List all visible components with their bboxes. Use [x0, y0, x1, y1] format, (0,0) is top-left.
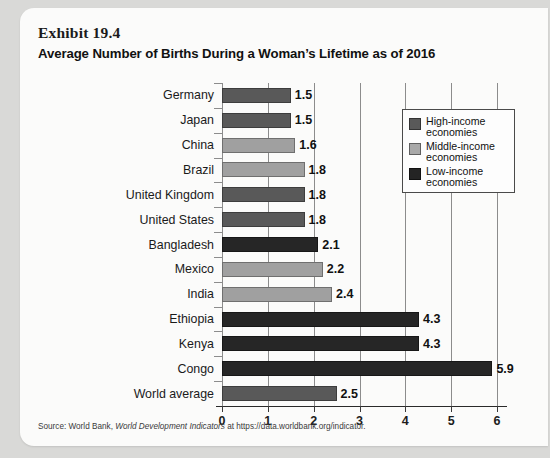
row-tick — [214, 282, 222, 283]
bar-value-label: 1.8 — [309, 188, 326, 202]
category-label-congo: Congo — [177, 362, 214, 376]
row-tick — [214, 257, 222, 258]
chart-legend: High-income economiesMiddle-income econo… — [402, 109, 515, 193]
category-label-mexico: Mexico — [175, 262, 214, 276]
exhibit-header: Exhibit 19.4 Average Number of Births Du… — [38, 24, 435, 61]
bar — [222, 386, 337, 401]
bar — [222, 287, 332, 302]
category-label-ethiopia: Ethiopia — [169, 312, 214, 326]
bar-value-label: 1.5 — [295, 113, 312, 127]
bar — [222, 262, 323, 277]
row-tick — [214, 83, 222, 84]
x-axis-line — [216, 406, 507, 407]
category-label-india: India — [187, 287, 214, 301]
legend-swatch-icon — [409, 143, 421, 155]
x-tick-label: 6 — [494, 414, 501, 428]
source-note: Source: World Bank, World Development In… — [38, 422, 366, 431]
category-label-united-states: United States — [140, 213, 214, 227]
x-tick-0 — [222, 406, 223, 412]
legend-swatch-icon — [409, 168, 421, 180]
bar — [222, 361, 492, 376]
bar-value-label: 2.2 — [327, 262, 344, 276]
row-tick — [214, 232, 222, 233]
legend-item: High-income economies — [409, 116, 509, 139]
bar — [222, 88, 291, 103]
source-italic-title: World Development Indicators — [115, 422, 225, 431]
x-tick-6 — [497, 406, 498, 412]
category-label-world-average: World average — [134, 387, 214, 401]
row-tick — [214, 356, 222, 357]
category-label-brazil: Brazil — [183, 163, 214, 177]
bar — [222, 336, 419, 351]
x-tick-5 — [451, 406, 452, 412]
category-label-china: China — [182, 138, 214, 152]
category-label-germany: Germany — [163, 88, 214, 102]
x-tick-3 — [360, 406, 361, 412]
row-tick — [214, 381, 222, 382]
exhibit-card: Exhibit 19.4 Average Number of Births Du… — [20, 8, 548, 446]
legend-swatch-icon — [409, 118, 421, 130]
category-label-united-kingdom: United Kingdom — [126, 188, 214, 202]
category-label-kenya: Kenya — [179, 337, 214, 351]
source-prefix: Source: World Bank, — [38, 422, 115, 431]
bar-value-label: 1.8 — [309, 213, 326, 227]
category-labels: GermanyJapanChinaBrazilUnited KingdomUni… — [20, 83, 214, 406]
row-tick — [214, 182, 222, 183]
bar — [222, 312, 419, 327]
row-tick — [214, 307, 222, 308]
bar-value-label: 4.3 — [423, 312, 440, 326]
bar-value-label: 1.6 — [299, 138, 316, 152]
exhibit-title: Average Number of Births During a Woman’… — [38, 46, 435, 61]
bar-value-label: 1.5 — [295, 88, 312, 102]
legend-label: Middle-income economies — [426, 141, 509, 164]
row-tick — [214, 331, 222, 332]
bar-value-label: 2.1 — [322, 238, 339, 252]
legend-item: Middle-income economies — [409, 141, 509, 164]
category-label-japan: Japan — [180, 113, 214, 127]
x-tick-4 — [405, 406, 406, 412]
row-tick — [214, 108, 222, 109]
exhibit-number: Exhibit 19.4 — [38, 24, 435, 42]
bar — [222, 138, 295, 153]
bar-value-label: 2.4 — [336, 287, 353, 301]
bar — [222, 237, 318, 252]
row-tick — [214, 158, 222, 159]
row-tick — [214, 133, 222, 134]
gridline-x-3 — [360, 83, 361, 406]
row-tick — [214, 207, 222, 208]
bar-value-label: 5.9 — [496, 362, 513, 376]
x-tick-label: 4 — [402, 414, 409, 428]
category-label-bangladesh: Bangladesh — [149, 238, 214, 252]
bar-value-label: 2.5 — [341, 387, 358, 401]
legend-label: Low-income economies — [426, 166, 509, 189]
legend-item: Low-income economies — [409, 166, 509, 189]
x-tick-label: 5 — [448, 414, 455, 428]
bar — [222, 187, 305, 202]
legend-label: High-income economies — [426, 116, 509, 139]
bar — [222, 212, 305, 227]
bar-value-label: 4.3 — [423, 337, 440, 351]
source-suffix: at https://data.worldbank.org/indicator. — [225, 422, 366, 431]
bar — [222, 113, 291, 128]
x-tick-2 — [314, 406, 315, 412]
bar — [222, 162, 305, 177]
bar-value-label: 1.8 — [309, 163, 326, 177]
x-tick-1 — [268, 406, 269, 412]
